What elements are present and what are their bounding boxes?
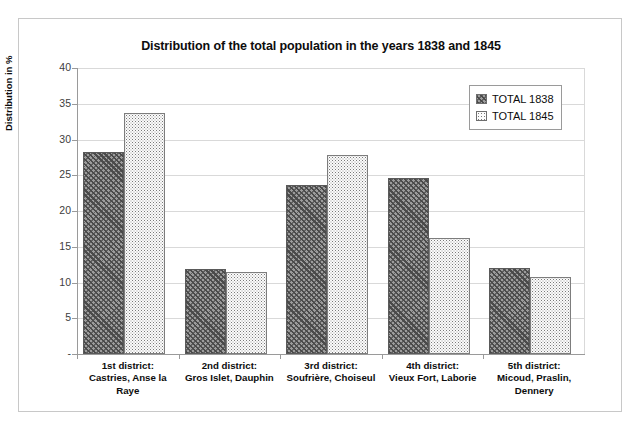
x-tick-mark (483, 354, 484, 359)
y-axis-tick-labels: 40 35 30 25 20 15 10 5 - (25, 68, 71, 354)
bar-1845-district-1[interactable] (124, 113, 165, 354)
category-line: 1st district: (77, 360, 179, 372)
category-label-district-5: 5th district: Micoud, Praslin, Dennery (483, 360, 585, 397)
category-line: Vieux Fort, Laborie (382, 372, 484, 384)
bar-1838-district-3[interactable] (286, 185, 327, 354)
y-axis-title: Distribution in % (3, 0, 14, 131)
category-label-district-2: 2nd district: Gros Islet, Dauphin (179, 360, 281, 385)
bar-1845-district-4[interactable] (429, 238, 470, 354)
y-tick-label: 25 (31, 168, 71, 180)
legend-item-1845[interactable]: TOTAL 1845 (476, 107, 554, 124)
y-tick-label: 5 (31, 311, 71, 323)
y-tick-label: 40 (31, 61, 71, 73)
legend-label-1845: TOTAL 1845 (492, 110, 554, 122)
category-line: 2nd district: (179, 360, 281, 372)
category-label-district-1: 1st district: Castries, Anse la Raye (77, 360, 179, 397)
y-tick-label: 10 (31, 276, 71, 288)
bar-1838-district-4[interactable] (388, 178, 429, 354)
bar-1845-district-3[interactable] (327, 155, 368, 354)
bar-group-3 (280, 68, 382, 354)
y-tick-label: 30 (31, 133, 71, 145)
x-axis-category-labels: 1st district: Castries, Anse la Raye 2nd… (77, 360, 585, 412)
legend-swatch-dotted-icon (476, 111, 487, 121)
category-line: 3rd district: (280, 360, 382, 372)
category-line: 4th district: (382, 360, 484, 372)
bar-1845-district-2[interactable] (226, 272, 267, 354)
y-tick-label: 15 (31, 240, 71, 252)
legend-item-1838[interactable]: TOTAL 1838 (476, 90, 554, 107)
x-tick-mark (179, 354, 180, 359)
category-line: Micoud, Praslin, (483, 372, 585, 384)
chart-title: Distribution of the total population in … (19, 39, 623, 53)
bar-1838-district-2[interactable] (185, 269, 226, 354)
x-tick-mark (77, 354, 78, 359)
bar-group-2 (179, 68, 281, 354)
y-tick-label: - (31, 347, 71, 359)
chart-screenshot: Distribution of the total population in … (0, 0, 642, 430)
legend-label-1838: TOTAL 1838 (492, 93, 554, 105)
x-axis-line (77, 354, 585, 355)
x-tick-mark (382, 354, 383, 359)
chart-frame: Distribution of the total population in … (18, 18, 622, 412)
category-label-district-3: 3rd district: Soufrière, Choiseul (280, 360, 382, 385)
y-tick-label: 35 (31, 97, 71, 109)
category-line: Castries, Anse la (77, 372, 179, 384)
category-line: 5th district: (483, 360, 585, 372)
category-line: Raye (77, 385, 179, 397)
category-line: Gros Islet, Dauphin (179, 372, 281, 384)
x-tick-mark (280, 354, 281, 359)
y-tick-label: 20 (31, 204, 71, 216)
bar-group-1 (77, 68, 179, 354)
bar-1838-district-1[interactable] (83, 152, 124, 354)
category-label-district-4: 4th district: Vieux Fort, Laborie (382, 360, 484, 385)
category-line: Soufrière, Choiseul (280, 372, 382, 384)
chart-legend[interactable]: TOTAL 1838 TOTAL 1845 (469, 85, 562, 130)
category-line: Dennery (483, 385, 585, 397)
bar-1845-district-5[interactable] (530, 277, 571, 354)
bar-1838-district-5[interactable] (489, 268, 530, 355)
legend-swatch-hatch-icon (476, 94, 487, 104)
